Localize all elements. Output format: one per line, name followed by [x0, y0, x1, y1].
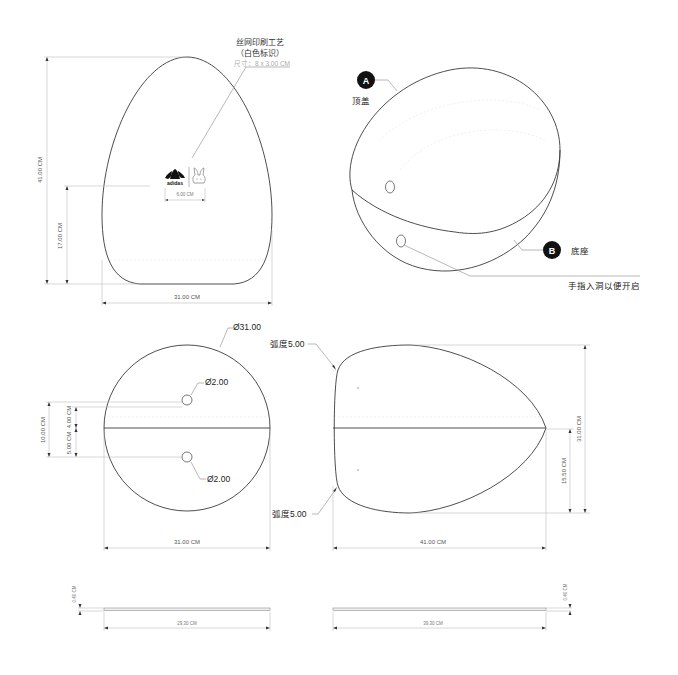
print-note-line2: （白色标识） [236, 48, 284, 58]
bottom-hole-diameter-label: Ø2.00 [207, 474, 230, 484]
base-outline [352, 150, 560, 271]
plate-left-length-label: 29.30 CM [177, 621, 197, 626]
logo-width-label: 6.00 CM [176, 192, 193, 197]
technical-drawing: 41.00 CM 17.00 CM 31.00 CM adidas [0, 0, 678, 675]
top-hole-diameter-label: Ø2.00 [205, 377, 228, 387]
plate-left-thickness-label: 0.40 CM [72, 585, 77, 602]
plate-right-thickness-label: 0.40 CM [563, 583, 568, 600]
plate-left-bar [104, 608, 270, 611]
side-view: 弧度5.00 弧度5.00 31.00 CM 15.50 CM 41.00 CM [270, 339, 590, 551]
plate-right-length-label: 39.30 CM [423, 621, 443, 626]
bunny-logo-icon [193, 168, 205, 183]
plate-left-view: 0.40 CM 29.30 CM [72, 585, 270, 631]
upper-offset-label: 4.00 CM [66, 406, 72, 429]
hole-span-label: 10.00 CM [40, 417, 46, 443]
side-half-height-label: 15.50 CM [561, 458, 567, 484]
front-view: 41.00 CM 17.00 CM 31.00 CM adidas [37, 37, 290, 306]
top-hole [182, 395, 192, 405]
side-height-label: 31.00 CM [576, 416, 582, 442]
adidas-trefoil-logo: adidas [165, 169, 185, 186]
part-b-label: 底座 [571, 246, 589, 256]
lid-outline [350, 68, 560, 234]
finger-hole-note: 手指入洞以便开启 [568, 281, 640, 291]
part-a-label: 顶盖 [352, 96, 370, 106]
print-note-leader [192, 67, 290, 158]
top-width-label: 31.00 CM [174, 539, 200, 545]
front-width-label: 31.00 CM [174, 294, 200, 300]
egg-front-outline [102, 57, 272, 284]
lid-finger-hole [386, 181, 395, 193]
perspective-view: A 顶盖 B 底座 手指入洞以便开启 [350, 68, 640, 291]
lower-offset-label: 5.00 CM [66, 432, 72, 455]
logo-height-label: 17.00 CM [57, 223, 63, 249]
front-height-label: 41.00 CM [37, 157, 43, 183]
top-view: Ø31.00 Ø2.00 Ø2.00 10.00 CM 4.00 CM 5.00… [40, 322, 270, 551]
part-b-badge-text: B [549, 246, 556, 256]
print-note-line3: 尺寸：8 x 3.00 CM [234, 59, 290, 68]
radius-bottom-label: 弧度5.00 [272, 509, 307, 519]
radius-top-label: 弧度5.00 [270, 339, 305, 349]
plate-right-view: 0.40 CM 39.30 CM [333, 583, 572, 631]
adidas-wordmark: adidas [167, 180, 183, 186]
side-width-label: 41.00 CM [420, 539, 446, 545]
circle-diameter-label: Ø31.00 [233, 322, 261, 332]
print-note-line1: 丝网印刷工艺 [236, 37, 284, 47]
plate-right-bar [333, 608, 546, 611]
side-egg-outline [334, 345, 546, 513]
part-a-badge-text: A [363, 76, 370, 86]
bottom-hole [182, 452, 192, 462]
